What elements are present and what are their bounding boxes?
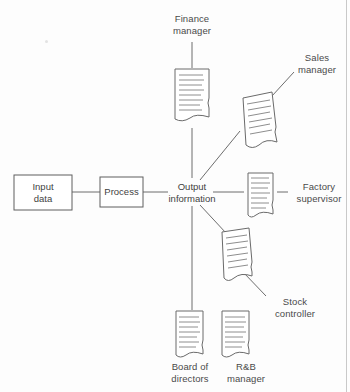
document-icon-finance-manager — [175, 69, 209, 121]
document-icon-rb-manager — [222, 311, 249, 357]
document-icon-factory-supervisor — [248, 173, 273, 217]
document-icon-board-of-directors — [176, 311, 203, 357]
output-information-label: Output information — [150, 181, 234, 204]
label-sales-manager: Sales manager — [288, 52, 346, 75]
document-icon-sales-manager — [243, 92, 277, 148]
label-stock-controller: Stock controller — [265, 296, 325, 319]
diagram-page: Input data Process Output information Fi… — [0, 0, 350, 392]
label-rb-manager: R&B manager — [210, 361, 282, 384]
connector-hub-to-stock-doc — [200, 205, 226, 233]
connector-hub-to-sales-doc — [200, 131, 240, 180]
label-factory-supervisor: Factory supervisor — [289, 181, 349, 204]
connector-stock-doc-to-label — [243, 272, 266, 296]
label-finance-manager: Finance manager — [156, 13, 228, 36]
process-label: Process — [100, 186, 143, 198]
connector-sales-doc-to-label — [272, 72, 294, 96]
input-data-label: Input data — [14, 181, 72, 204]
document-icon-stock-controller — [222, 228, 252, 281]
